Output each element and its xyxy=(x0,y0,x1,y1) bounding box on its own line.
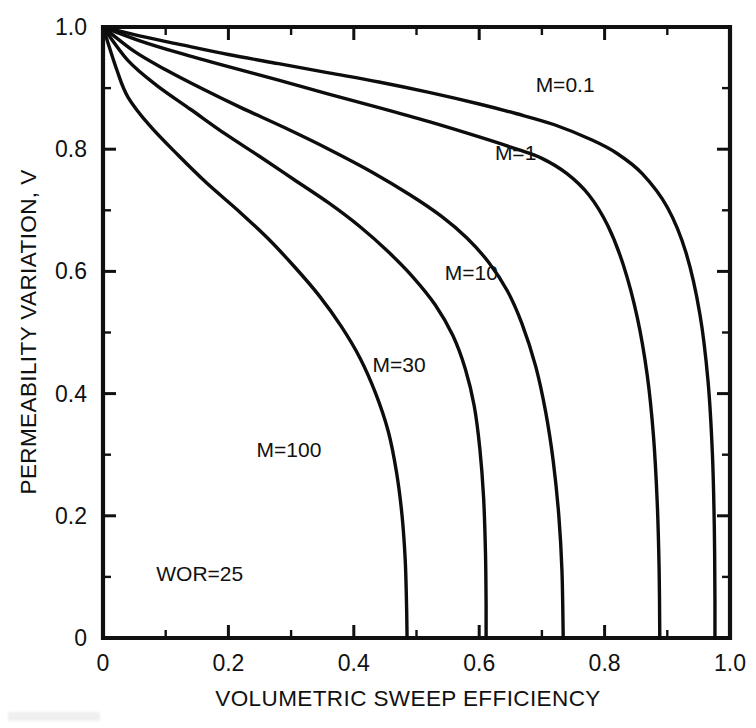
x-tick-label: 0.8 xyxy=(589,650,621,676)
y-tick-label: 0.8 xyxy=(55,136,87,162)
scan-artifact xyxy=(8,712,100,721)
x-tick-label: 0.6 xyxy=(463,650,495,676)
chart-canvas: 00.20.40.60.81.0 00.20.40.60.81.0 M=0.1M… xyxy=(0,0,756,728)
y-tick-label: 0 xyxy=(74,625,87,651)
y-tick-label: 1.0 xyxy=(55,14,87,40)
x-tick-label: 0 xyxy=(97,650,110,676)
x-tick-label: 1.0 xyxy=(714,650,746,676)
curve-label-m-30: M=30 xyxy=(373,353,426,376)
y-tick-label: 0.2 xyxy=(55,503,87,529)
curve-label-m-0-1: M=0.1 xyxy=(536,73,595,96)
curve-label-m-1: M=1 xyxy=(495,141,536,164)
x-axis-title: VOLUMETRIC SWEEP EFFICIENCY xyxy=(215,686,600,711)
y-tick-label: 0.4 xyxy=(55,381,87,407)
x-tick-label: 0.4 xyxy=(338,650,370,676)
chart-figure: 00.20.40.60.81.0 00.20.40.60.81.0 M=0.1M… xyxy=(0,0,756,728)
x-tick-label: 0.2 xyxy=(212,650,244,676)
chart-annotations: WOR=25 xyxy=(156,562,243,585)
y-tick-label: 0.6 xyxy=(55,258,87,284)
curve-label-m-10: M=10 xyxy=(445,261,498,284)
curve-label-m-100: M=100 xyxy=(257,438,322,461)
annotation-wor: WOR=25 xyxy=(156,562,243,585)
y-axis-title: PERMEABILITY VARIATION, V xyxy=(16,169,41,494)
